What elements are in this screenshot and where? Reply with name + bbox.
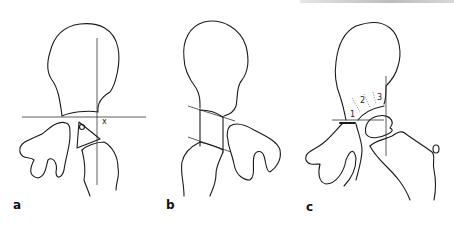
wedge-triangle-a bbox=[77, 122, 100, 148]
panel-a-drawing: x bbox=[20, 24, 146, 196]
panel-c-drawing: 1 2 3 bbox=[306, 23, 439, 201]
measure-line-3 bbox=[373, 92, 376, 104]
figure-drawing: x 1 2 3 bbox=[0, 0, 454, 226]
annotation-x: x bbox=[102, 117, 107, 126]
panel-label-a: a bbox=[13, 198, 21, 212]
right-bone-shape-b bbox=[227, 124, 280, 180]
lower-shaft-right-b bbox=[210, 152, 223, 196]
lower-shaft-left-a bbox=[82, 150, 90, 196]
femoral-head-outline-c bbox=[335, 23, 400, 121]
small-foramen-c bbox=[433, 145, 439, 153]
left-bone-shape-c bbox=[306, 124, 362, 186]
annotation-2: 2 bbox=[360, 96, 365, 105]
upper-oblique-line-b bbox=[188, 106, 235, 121]
annotation-3: 3 bbox=[377, 93, 382, 102]
lower-shaft-b bbox=[181, 142, 200, 196]
left-bone-shape-a bbox=[20, 122, 70, 178]
panel-b-drawing bbox=[181, 21, 280, 196]
triangle-vertex-circle-a bbox=[80, 125, 85, 130]
neck-arc-c bbox=[358, 106, 384, 120]
annotation-1: 1 bbox=[350, 110, 355, 119]
lower-shaft-a bbox=[82, 142, 119, 190]
pelvis-lower-curve-c bbox=[370, 146, 410, 200]
panel-label-c: c bbox=[306, 200, 313, 214]
acetabulum-loop-c bbox=[366, 116, 393, 138]
femoral-head-outline-b bbox=[184, 21, 248, 116]
pelvis-outline-c bbox=[370, 132, 436, 200]
femoral-head-outline-a bbox=[48, 24, 119, 116]
panel-label-b: b bbox=[166, 198, 175, 212]
lower-arc-b bbox=[200, 142, 223, 150]
